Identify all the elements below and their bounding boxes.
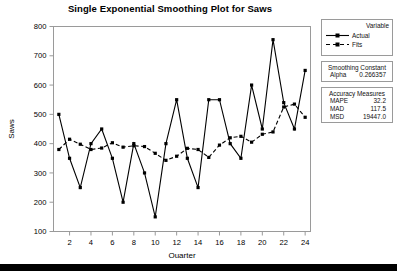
data-point-fits [239, 135, 242, 138]
data-point-actual [89, 142, 92, 145]
legend-key-actual [325, 31, 350, 40]
legend-title: Variable [325, 22, 389, 29]
x-axis-tick-label: 8 [132, 238, 136, 247]
measure-value-msd: 19447.0 [358, 113, 389, 121]
legend-box: Variable Actual Fits [321, 19, 393, 56]
y-axis-tick-label: 500 [34, 110, 47, 119]
data-point-actual [175, 98, 178, 101]
data-point-fits [261, 133, 264, 136]
series-line-fits [59, 104, 305, 160]
data-point-actual [218, 98, 221, 101]
y-axis-tick-label: 100 [34, 227, 47, 236]
measure-row-mape: MAPE 32.2 [325, 97, 389, 105]
data-point-actual [57, 113, 60, 116]
x-axis-tick-label: 20 [258, 238, 266, 247]
data-point-fits [271, 130, 274, 133]
data-point-fits [79, 143, 82, 146]
data-point-actual [196, 186, 199, 189]
y-axis-label: Saws [7, 119, 16, 139]
x-axis-tick-label: 12 [172, 238, 180, 247]
alpha-row: Alpha 0.266357 [325, 71, 389, 79]
chart-screenshot: Single Exponential Smoothing Plot for Sa… [0, 0, 397, 271]
data-point-actual [304, 69, 307, 72]
legend-label-actual: Actual [350, 32, 370, 39]
y-axis-tick-label: 600 [34, 81, 47, 90]
data-point-fits [186, 147, 189, 150]
data-point-fits [250, 141, 253, 144]
data-point-fits [207, 156, 210, 159]
data-point-fits [164, 159, 167, 162]
alpha-value: 0.266357 [358, 71, 389, 79]
data-point-fits [282, 105, 285, 108]
legend-item-actual[interactable]: Actual [325, 31, 389, 40]
measure-row-msd: MSD 19447.0 [325, 113, 389, 121]
data-point-actual [79, 186, 82, 189]
data-point-actual [293, 127, 296, 130]
x-axis-tick-label: 10 [151, 238, 159, 247]
data-point-actual [282, 101, 285, 104]
x-axis-tick-label: 22 [280, 238, 288, 247]
smoothing-constant-box: Smoothing Constant Alpha 0.266357 [321, 61, 393, 82]
bottom-bar [0, 264, 397, 271]
data-point-fits [89, 148, 92, 151]
measure-row-mad: MAD 117.5 [325, 105, 389, 113]
data-point-fits [218, 144, 221, 147]
data-point-fits [143, 145, 146, 148]
y-axis-tick-label: 800 [34, 22, 47, 31]
data-point-fits [154, 152, 157, 155]
data-point-actual [207, 98, 210, 101]
measure-label-mape: MAPE [325, 97, 358, 105]
legend-key-fits [325, 40, 350, 49]
data-point-fits [111, 141, 114, 144]
data-point-actual [186, 157, 189, 160]
data-point-fits [293, 103, 296, 106]
data-point-actual [143, 171, 146, 174]
data-point-fits [132, 144, 135, 147]
series-line-actual [59, 40, 305, 217]
legend-item-fits[interactable]: Fits [325, 40, 389, 49]
x-axis-tick-label: 14 [194, 238, 202, 247]
data-point-fits [304, 116, 307, 119]
data-point-fits [57, 148, 60, 151]
measure-value-mape: 32.2 [358, 97, 389, 105]
x-axis-tick-label: 4 [89, 238, 93, 247]
x-axis-tick-label: 16 [215, 238, 223, 247]
x-axis-tick-label: 6 [110, 238, 114, 247]
measure-value-mad: 117.5 [358, 105, 389, 113]
data-point-fits [100, 146, 103, 149]
data-point-fits [196, 148, 199, 151]
accuracy-measures-title: Accuracy Measures [325, 90, 389, 97]
measure-label-mad: MAD [325, 105, 358, 113]
data-point-fits [229, 136, 232, 139]
x-axis-tick-label: 24 [301, 238, 309, 247]
data-point-actual [68, 157, 71, 160]
accuracy-measures-box: Accuracy Measures MAPE 32.2 MAD 117.5 MS… [321, 87, 393, 123]
data-point-fits [175, 155, 178, 158]
smoothing-constant-title: Smoothing Constant [325, 64, 389, 71]
data-point-actual [111, 157, 114, 160]
data-point-actual [239, 157, 242, 160]
x-axis-tick-label: 18 [237, 238, 245, 247]
data-point-actual [250, 83, 253, 86]
data-point-actual [154, 215, 157, 218]
data-point-fits [122, 146, 125, 149]
legend-label-fits: Fits [350, 41, 362, 48]
x-axis-label: Quarter [168, 251, 195, 259]
y-axis-tick-label: 400 [34, 139, 47, 148]
measure-label-msd: MSD [325, 113, 358, 121]
x-axis-tick-label: 2 [67, 238, 71, 247]
data-point-actual [122, 201, 125, 204]
data-point-actual [100, 127, 103, 130]
data-point-actual [164, 142, 167, 145]
y-axis-tick-label: 200 [34, 198, 47, 207]
data-point-fits [68, 138, 71, 141]
data-point-actual [261, 127, 264, 130]
data-point-actual [229, 142, 232, 145]
data-point-actual [271, 38, 274, 41]
alpha-label: Alpha [325, 71, 358, 79]
y-axis-tick-label: 300 [34, 169, 47, 178]
y-axis-tick-label: 700 [34, 51, 47, 60]
